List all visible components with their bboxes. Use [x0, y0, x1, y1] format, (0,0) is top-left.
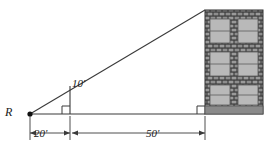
window [238, 85, 258, 105]
window [210, 19, 230, 43]
building [205, 10, 263, 114]
geometry-figure: R 10' 20' 50' [0, 0, 266, 144]
right-angle-marker-pole [62, 106, 70, 114]
dimension-arrow-left-50 [72, 131, 78, 136]
window [210, 52, 230, 76]
window [238, 19, 258, 43]
dimension-arrow-right-20 [64, 131, 70, 136]
dimension-lines [30, 116, 205, 140]
point-r-dot [27, 111, 32, 116]
window [210, 85, 230, 105]
window [238, 52, 258, 76]
dimension-label-50: 50' [146, 128, 159, 139]
dimension-arrow-right-50 [199, 131, 205, 136]
right-angle-marker-building [197, 106, 205, 114]
building-foundation [205, 106, 263, 114]
diagram-canvas [0, 0, 266, 144]
hypotenuse-line [30, 10, 205, 114]
dimension-label-pole-height: 10' [72, 78, 85, 89]
point-label-r: R [5, 106, 12, 118]
dimension-label-20: 20' [34, 128, 47, 139]
